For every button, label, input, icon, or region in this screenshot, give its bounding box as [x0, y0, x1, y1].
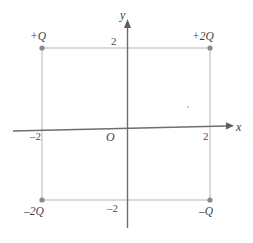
y-axis-label: y: [120, 9, 125, 21]
charge-label-top-left: +Q: [30, 31, 46, 43]
charge-dot-bottom-left: [39, 197, 44, 202]
charge-markers: [39, 45, 212, 202]
y-tick-label-positive: 2: [111, 36, 117, 47]
x-axis-label: x: [236, 121, 241, 133]
x-tick-label-positive: 2: [203, 131, 209, 142]
charge-dot-top-left: [39, 45, 44, 50]
x-axis: [13, 122, 234, 131]
charge-square-diagram: y x O 2 –2 –2 2 +Q +2Q –2Q –Q: [0, 0, 253, 243]
x-tick-label-negative: –2: [30, 131, 41, 142]
charge-dot-top-right: [207, 45, 212, 50]
charge-label-bottom-right: –Q: [199, 206, 213, 218]
origin-label: O: [106, 131, 115, 143]
charge-label-bottom-left: –2Q: [24, 206, 44, 218]
charge-square-outline: [42, 48, 210, 200]
scan-speck: [187, 106, 189, 108]
charge-dot-bottom-right: [207, 197, 212, 202]
y-axis: [124, 19, 131, 228]
y-tick-label-negative: –2: [107, 203, 118, 214]
charge-label-top-right: +2Q: [192, 31, 214, 43]
